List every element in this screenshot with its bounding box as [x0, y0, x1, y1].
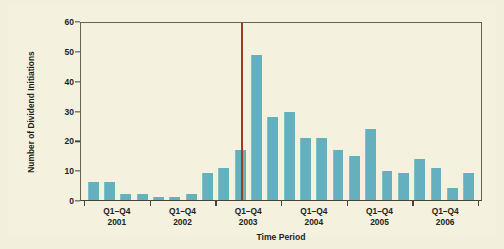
- bar[interactable]: [218, 168, 229, 200]
- bar-slot: [118, 23, 134, 200]
- x-tick-quarters: Q1–Q4: [169, 206, 196, 217]
- plot-area: [80, 22, 482, 201]
- bar-slot: [346, 23, 362, 200]
- bar-slot: [216, 23, 232, 200]
- x-tick-quarters: Q1–Q4: [432, 206, 459, 217]
- y-tick-label: 0: [69, 196, 74, 206]
- bar[interactable]: [120, 194, 131, 200]
- x-axis-label: Time Period: [80, 232, 482, 242]
- bar-slot: [444, 23, 460, 200]
- x-tick-year: 2003: [235, 217, 262, 228]
- x-tick-quarters: Q1–Q4: [103, 206, 130, 217]
- bar[interactable]: [104, 182, 115, 200]
- bar-slot: [281, 23, 297, 200]
- bar[interactable]: [284, 112, 295, 201]
- y-tick-label: 30: [65, 107, 74, 117]
- bar-slot: [265, 23, 281, 200]
- y-tick-label: 10: [65, 166, 74, 176]
- x-axis-tick-labels: Q1–Q42001Q1–Q42002Q1–Q42003Q1–Q42004Q1–Q…: [80, 206, 482, 234]
- bar[interactable]: [251, 55, 262, 200]
- x-tick-year: 2002: [169, 217, 196, 228]
- x-tick-quarters: Q1–Q4: [366, 206, 393, 217]
- bar-slot: [314, 23, 330, 200]
- x-tick-year: 2005: [366, 217, 393, 228]
- y-axis: Number of Dividend Initiations 010203040…: [8, 22, 80, 201]
- x-tick-year: 2001: [103, 217, 130, 228]
- x-tick-group-label: Q1–Q42004: [300, 206, 327, 228]
- x-tick-quarters: Q1–Q4: [300, 206, 327, 217]
- bar[interactable]: [202, 173, 213, 200]
- bar-slot: [85, 23, 101, 200]
- bar-slot: [428, 23, 444, 200]
- x-tick-group-label: Q1–Q42002: [169, 206, 196, 228]
- x-tick-group-label: Q1–Q42005: [366, 206, 393, 228]
- bar[interactable]: [186, 194, 197, 200]
- bar-slot: [363, 23, 379, 200]
- x-tick-quarters: Q1–Q4: [235, 206, 262, 217]
- bar[interactable]: [169, 197, 180, 200]
- bar[interactable]: [88, 182, 99, 200]
- x-tick-year: 2006: [432, 217, 459, 228]
- x-tick-year: 2004: [300, 217, 327, 228]
- bar-slot: [395, 23, 411, 200]
- bar-slot: [379, 23, 395, 200]
- y-tick-label: 20: [65, 136, 74, 146]
- y-axis-label: Number of Dividend Initiations: [26, 27, 36, 197]
- bar[interactable]: [267, 117, 278, 200]
- bar[interactable]: [137, 194, 148, 200]
- bar-slot: [150, 23, 166, 200]
- bar[interactable]: [316, 138, 327, 200]
- bar-slot: [412, 23, 428, 200]
- x-tick-group-label: Q1–Q42001: [103, 206, 130, 228]
- y-tick-label: 60: [65, 17, 74, 27]
- bar-slot: [199, 23, 215, 200]
- x-tick-group-label: Q1–Q42003: [235, 206, 262, 228]
- bar[interactable]: [333, 150, 344, 200]
- bar[interactable]: [398, 173, 409, 200]
- bar[interactable]: [153, 197, 164, 200]
- y-tick-label: 40: [65, 77, 74, 87]
- bar-slot: [297, 23, 313, 200]
- bar-series: [81, 23, 481, 200]
- bar[interactable]: [300, 138, 311, 200]
- bar[interactable]: [365, 129, 376, 200]
- bar-slot: [134, 23, 150, 200]
- bar-slot: [183, 23, 199, 200]
- bar-slot: [101, 23, 117, 200]
- figure-frame: Number of Dividend Initiations 010203040…: [8, 5, 496, 237]
- bar-slot: [167, 23, 183, 200]
- bar-slot: [330, 23, 346, 200]
- bar[interactable]: [447, 188, 458, 200]
- x-tick-group-label: Q1–Q42006: [432, 206, 459, 228]
- bar[interactable]: [349, 156, 360, 200]
- chart-figure: Number of Dividend Initiations 010203040…: [0, 0, 504, 249]
- bar[interactable]: [431, 168, 442, 200]
- y-tick-label: 50: [65, 47, 74, 57]
- bar[interactable]: [382, 171, 393, 201]
- bar-slot: [461, 23, 477, 200]
- bar-slot: [248, 23, 264, 200]
- event-line-marker: [241, 23, 243, 200]
- bar[interactable]: [463, 173, 474, 200]
- bar[interactable]: [414, 159, 425, 200]
